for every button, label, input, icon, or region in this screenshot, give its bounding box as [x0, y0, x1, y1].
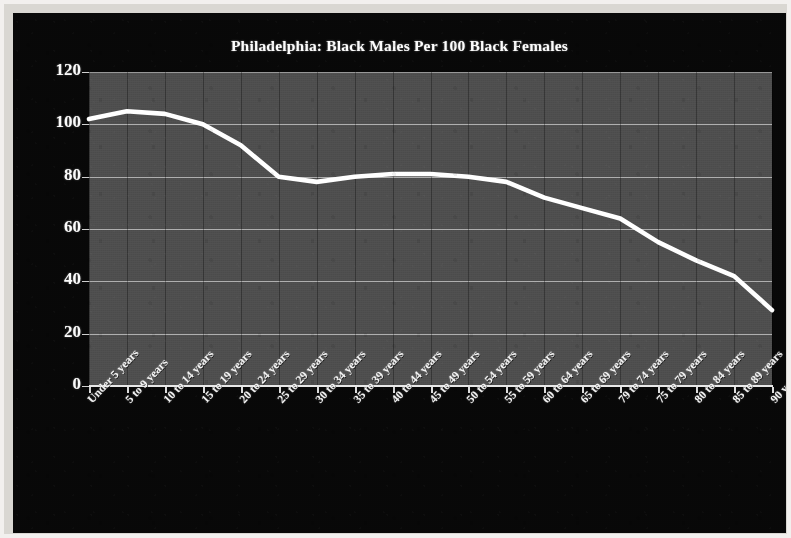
data-line-series	[13, 13, 786, 533]
chart-image: Philadelphia: Black Males Per 100 Black …	[0, 0, 791, 538]
chart-frame-border: Philadelphia: Black Males Per 100 Black …	[4, 4, 787, 534]
chart-canvas: Philadelphia: Black Males Per 100 Black …	[13, 13, 786, 533]
series-polyline	[89, 111, 772, 310]
